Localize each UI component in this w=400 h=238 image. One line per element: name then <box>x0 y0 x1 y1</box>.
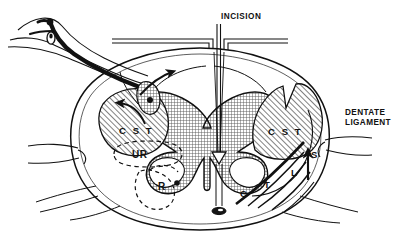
lamination-label-s: S <box>311 150 318 160</box>
root-entry-dot <box>147 97 153 103</box>
artery-lumen-highlight <box>218 209 223 212</box>
lamination-label-l: L <box>291 168 297 178</box>
ganglion-nucleus <box>49 33 52 38</box>
lamination-label-c: C <box>240 189 247 199</box>
ur-label: UR <box>132 150 148 161</box>
incision-label: INCISION <box>221 13 261 22</box>
cst-label-right: C S T <box>268 127 303 137</box>
r-marker-dot <box>174 180 180 186</box>
root-entry-node <box>47 19 54 26</box>
figure-root: INCISION DENTATE LIGAMENT C S T C S T UR… <box>0 0 400 238</box>
spinal-cord-diagram <box>0 0 400 238</box>
dentate-ligament-label: DENTATE LIGAMENT <box>345 108 391 129</box>
lamination-label-t: T <box>264 180 270 190</box>
cst-label-left: C S T <box>119 126 154 136</box>
r-label: R <box>158 182 165 193</box>
